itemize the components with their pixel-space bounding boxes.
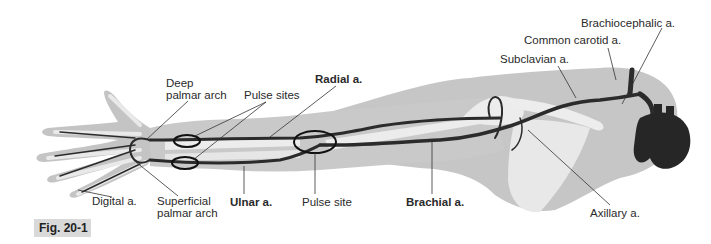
label-deep-palmar-arch: Deep palmar arch <box>166 77 227 101</box>
anatomy-figure: Deep palmar arch Pulse sites Radial a. B… <box>0 0 711 244</box>
label-common-carotid-artery: Common carotid a. <box>524 34 621 46</box>
label-line: Superficial <box>157 195 218 207</box>
label-ulnar-artery: Ulnar a. <box>230 196 272 208</box>
label-brachiocephalic-artery: Brachiocephalic a. <box>581 17 675 29</box>
aortic-arch <box>634 113 691 169</box>
label-superficial-palmar-arch: Superficial palmar arch <box>157 195 218 219</box>
aortic-branch <box>654 104 662 126</box>
label-axillary-artery: Axillary a. <box>590 207 640 219</box>
label-brachial-artery: Brachial a. <box>406 196 464 208</box>
label-line: Deep <box>166 77 227 89</box>
label-radial-artery: Radial a. <box>315 73 362 85</box>
label-subclavian-artery: Subclavian a. <box>500 53 569 65</box>
figure-number-tag: Fig. 20-1 <box>34 219 91 237</box>
label-digital-artery: Digital a. <box>92 195 137 207</box>
aortic-branch <box>666 106 674 126</box>
label-line: palmar arch <box>157 207 218 219</box>
label-pulse-sites: Pulse sites <box>244 89 300 101</box>
hand-silhouette <box>37 90 151 197</box>
label-pulse-site: Pulse site <box>302 196 352 208</box>
label-line: palmar arch <box>166 89 227 101</box>
